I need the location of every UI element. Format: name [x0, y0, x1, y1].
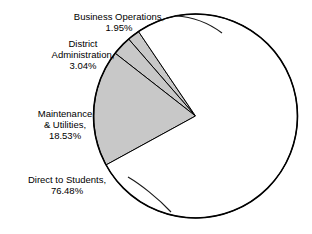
- pie-label-maintenance-utilities: Maintenance & Utilities, 18.53%: [12, 108, 118, 142]
- pie-label-direct-to-students: Direct to Students, 76.48%: [6, 174, 128, 196]
- pie-label-district-administration: District Administration, 3.04%: [31, 38, 135, 72]
- pie-chart: Business Operations, 1.95% District Admi…: [0, 0, 312, 234]
- pie-label-business-operations: Business Operations, 1.95%: [55, 11, 183, 33]
